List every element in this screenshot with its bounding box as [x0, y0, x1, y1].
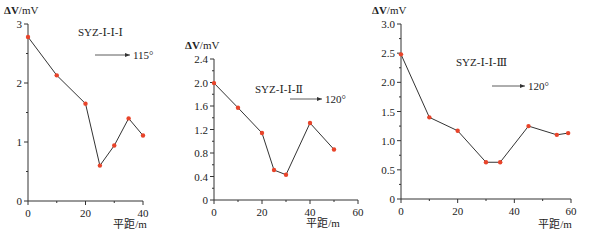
series-title: SYZ-Ⅰ-Ⅰ-Ⅱ	[255, 83, 303, 95]
chart-canvas: 012302040ΔV/mV平距/mSYZ-Ⅰ-Ⅰ-Ⅰ115°00.40.81.…	[0, 0, 602, 243]
chart-1: 012302040ΔV/mV平距/mSYZ-Ⅰ-Ⅰ-Ⅰ115°	[4, 4, 154, 230]
x-axis-label: 平距/m	[113, 218, 147, 230]
x-tick-label: 40	[509, 205, 521, 217]
data-point	[98, 163, 102, 167]
data-point	[427, 115, 431, 119]
y-tick-label: 0	[17, 195, 23, 207]
chart-2: 00.40.81.21.62.02.40204060ΔV/mV平距/mSYZ-Ⅰ…	[185, 39, 364, 229]
data-point	[126, 116, 130, 120]
data-point	[555, 133, 559, 137]
y-tick-label: 2	[17, 77, 23, 89]
x-axis-label: 平距/m	[538, 218, 572, 230]
x-axis-label: 平距/m	[306, 217, 340, 229]
data-point	[308, 121, 312, 125]
y-tick-label: 3	[17, 18, 23, 30]
data-point	[399, 52, 403, 56]
data-point	[141, 133, 145, 137]
y-tick-label: 2.0	[194, 77, 208, 89]
data-point	[112, 143, 116, 147]
data-point	[212, 81, 216, 85]
y-axis-label: ΔV/mV	[185, 39, 219, 51]
y-tick-label: 0	[390, 193, 396, 205]
y-tick-label: 2.5	[381, 47, 395, 59]
data-point	[526, 124, 530, 128]
series-title: SYZ-Ⅰ-Ⅰ-Ⅲ	[456, 56, 507, 68]
chart-3: 00.51.01.52.02.53.00204060ΔV/mV平距/mSYZ-Ⅰ…	[372, 4, 577, 230]
x-tick-label: 20	[80, 207, 92, 219]
data-point	[260, 131, 264, 135]
y-tick-label: 2.0	[381, 76, 395, 88]
direction-angle: 120°	[325, 93, 346, 105]
y-tick-label: 1	[17, 136, 23, 148]
series-title: SYZ-Ⅰ-Ⅰ-Ⅰ	[78, 26, 123, 38]
x-tick-label: 60	[566, 205, 578, 217]
data-point	[236, 106, 240, 110]
y-tick-label: 0.5	[381, 164, 395, 176]
data-point	[455, 129, 459, 133]
data-point	[332, 147, 336, 151]
data-point	[55, 73, 59, 77]
data-point	[26, 35, 30, 39]
y-tick-label: 0	[203, 194, 209, 206]
y-axis-label: ΔV/mV	[372, 4, 406, 16]
y-tick-label: 1.6	[194, 100, 208, 112]
data-point	[498, 160, 502, 164]
data-point	[284, 173, 288, 177]
y-tick-label: 1.2	[194, 124, 208, 136]
data-point	[272, 168, 276, 172]
y-tick-label: 3.0	[381, 18, 395, 30]
y-tick-label: 2.4	[194, 53, 208, 65]
x-tick-label: 0	[211, 206, 217, 218]
x-tick-label: 0	[398, 205, 404, 217]
data-point	[83, 101, 87, 105]
data-point	[566, 131, 570, 135]
x-tick-label: 20	[452, 205, 464, 217]
data-line	[214, 83, 334, 175]
direction-angle: 115°	[133, 49, 154, 61]
y-tick-label: 1.0	[381, 135, 395, 147]
x-tick-label: 20	[257, 206, 269, 218]
y-axis-label: ΔV/mV	[4, 4, 38, 16]
x-tick-label: 60	[353, 206, 365, 218]
data-point	[484, 160, 488, 164]
y-tick-label: 1.5	[381, 106, 395, 118]
x-tick-label: 0	[25, 207, 31, 219]
data-line	[401, 54, 568, 162]
y-tick-label: 0.8	[194, 147, 208, 159]
y-tick-label: 0.4	[194, 171, 208, 183]
direction-angle: 120°	[528, 80, 549, 92]
